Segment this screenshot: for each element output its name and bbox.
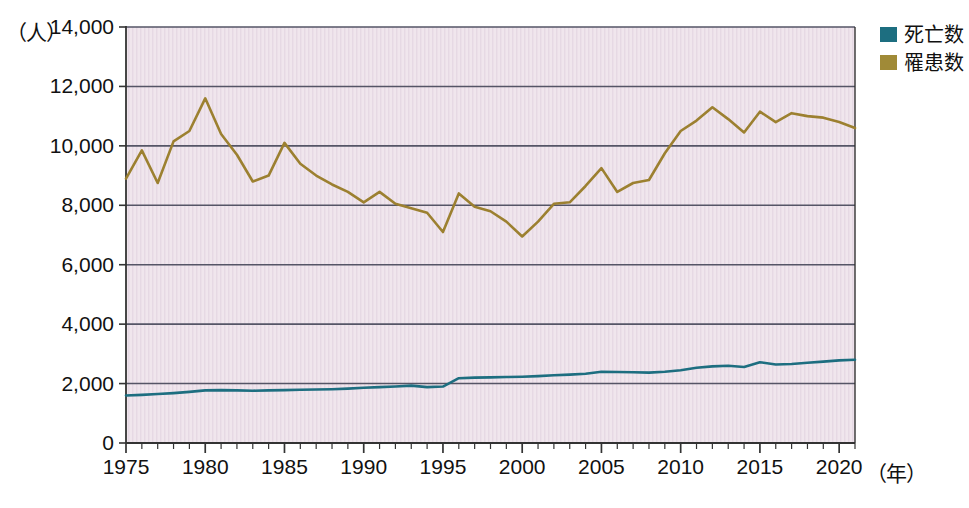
legend-item-label: 罹患数 <box>904 53 964 73</box>
plot-area <box>0 0 969 508</box>
chart-container: （人） （年） 02,0004,0006,0008,00010,00012,00… <box>0 0 969 508</box>
legend-item-label: 死亡数 <box>904 25 964 45</box>
legend-item[interactable]: 死亡数 <box>880 22 964 47</box>
chart-legend: 死亡数罹患数 <box>880 22 964 78</box>
plot-background <box>126 27 855 443</box>
legend-color-swatch <box>880 27 897 42</box>
legend-color-swatch <box>880 55 897 70</box>
legend-item[interactable]: 罹患数 <box>880 50 964 75</box>
